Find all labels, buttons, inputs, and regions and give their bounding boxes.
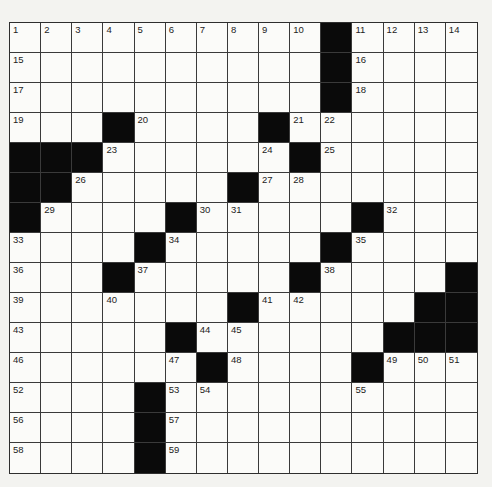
letter-cell[interactable] — [352, 323, 383, 353]
letter-cell[interactable]: 25 — [321, 143, 352, 173]
letter-cell[interactable]: 54 — [197, 383, 228, 413]
letter-cell[interactable] — [166, 113, 197, 143]
letter-cell[interactable] — [352, 143, 383, 173]
letter-cell[interactable] — [259, 323, 290, 353]
letter-cell[interactable] — [72, 413, 103, 443]
letter-cell[interactable]: 36 — [10, 263, 41, 293]
letter-cell[interactable]: 45 — [228, 323, 259, 353]
letter-cell[interactable] — [446, 83, 477, 113]
letter-cell[interactable]: 15 — [10, 53, 41, 83]
letter-cell[interactable] — [228, 413, 259, 443]
letter-cell[interactable] — [228, 53, 259, 83]
letter-cell[interactable] — [103, 53, 134, 83]
letter-cell[interactable] — [135, 83, 166, 113]
letter-cell[interactable] — [415, 203, 446, 233]
letter-cell[interactable] — [290, 443, 321, 473]
letter-cell[interactable]: 49 — [384, 353, 415, 383]
letter-cell[interactable]: 8 — [228, 23, 259, 53]
letter-cell[interactable] — [72, 233, 103, 263]
letter-cell[interactable]: 30 — [197, 203, 228, 233]
letter-cell[interactable]: 18 — [352, 83, 383, 113]
letter-cell[interactable] — [290, 413, 321, 443]
letter-cell[interactable] — [228, 443, 259, 473]
letter-cell[interactable] — [41, 413, 72, 443]
letter-cell[interactable] — [135, 53, 166, 83]
letter-cell[interactable] — [446, 143, 477, 173]
letter-cell[interactable] — [384, 293, 415, 323]
letter-cell[interactable] — [228, 83, 259, 113]
letter-cell[interactable] — [384, 413, 415, 443]
letter-cell[interactable] — [72, 323, 103, 353]
letter-cell[interactable] — [72, 203, 103, 233]
letter-cell[interactable] — [197, 173, 228, 203]
letter-cell[interactable]: 57 — [166, 413, 197, 443]
letter-cell[interactable] — [166, 263, 197, 293]
letter-cell[interactable] — [72, 83, 103, 113]
letter-cell[interactable]: 13 — [415, 23, 446, 53]
letter-cell[interactable] — [197, 293, 228, 323]
letter-cell[interactable] — [290, 203, 321, 233]
letter-cell[interactable] — [103, 383, 134, 413]
letter-cell[interactable] — [41, 383, 72, 413]
letter-cell[interactable] — [321, 203, 352, 233]
letter-cell[interactable]: 21 — [290, 113, 321, 143]
letter-cell[interactable]: 33 — [10, 233, 41, 263]
letter-cell[interactable] — [103, 323, 134, 353]
letter-cell[interactable]: 19 — [10, 113, 41, 143]
letter-cell[interactable] — [135, 203, 166, 233]
letter-cell[interactable] — [290, 83, 321, 113]
letter-cell[interactable] — [135, 143, 166, 173]
letter-cell[interactable] — [415, 233, 446, 263]
letter-cell[interactable]: 56 — [10, 413, 41, 443]
letter-cell[interactable] — [197, 413, 228, 443]
letter-cell[interactable] — [135, 293, 166, 323]
letter-cell[interactable] — [446, 203, 477, 233]
letter-cell[interactable] — [41, 113, 72, 143]
letter-cell[interactable]: 23 — [103, 143, 134, 173]
letter-cell[interactable] — [446, 443, 477, 473]
letter-cell[interactable] — [321, 413, 352, 443]
letter-cell[interactable]: 35 — [352, 233, 383, 263]
letter-cell[interactable] — [41, 323, 72, 353]
letter-cell[interactable] — [259, 443, 290, 473]
letter-cell[interactable] — [197, 83, 228, 113]
letter-cell[interactable] — [321, 323, 352, 353]
letter-cell[interactable] — [72, 263, 103, 293]
letter-cell[interactable] — [72, 53, 103, 83]
letter-cell[interactable] — [415, 143, 446, 173]
letter-cell[interactable] — [384, 443, 415, 473]
letter-cell[interactable]: 32 — [384, 203, 415, 233]
letter-cell[interactable] — [415, 263, 446, 293]
letter-cell[interactable] — [259, 203, 290, 233]
letter-cell[interactable]: 16 — [352, 53, 383, 83]
letter-cell[interactable]: 43 — [10, 323, 41, 353]
letter-cell[interactable] — [135, 323, 166, 353]
letter-cell[interactable] — [197, 113, 228, 143]
letter-cell[interactable]: 1 — [10, 23, 41, 53]
letter-cell[interactable]: 6 — [166, 23, 197, 53]
letter-cell[interactable] — [321, 173, 352, 203]
letter-cell[interactable]: 29 — [41, 203, 72, 233]
letter-cell[interactable]: 9 — [259, 23, 290, 53]
letter-cell[interactable]: 11 — [352, 23, 383, 53]
letter-cell[interactable]: 48 — [228, 353, 259, 383]
letter-cell[interactable]: 38 — [321, 263, 352, 293]
letter-cell[interactable] — [321, 443, 352, 473]
letter-cell[interactable] — [166, 143, 197, 173]
letter-cell[interactable] — [352, 443, 383, 473]
letter-cell[interactable]: 3 — [72, 23, 103, 53]
letter-cell[interactable]: 51 — [446, 353, 477, 383]
letter-cell[interactable]: 4 — [103, 23, 134, 53]
letter-cell[interactable] — [197, 53, 228, 83]
letter-cell[interactable] — [166, 293, 197, 323]
letter-cell[interactable] — [290, 353, 321, 383]
letter-cell[interactable]: 50 — [415, 353, 446, 383]
letter-cell[interactable] — [259, 53, 290, 83]
letter-cell[interactable] — [446, 113, 477, 143]
letter-cell[interactable]: 14 — [446, 23, 477, 53]
letter-cell[interactable] — [72, 113, 103, 143]
letter-cell[interactable] — [384, 383, 415, 413]
letter-cell[interactable] — [72, 293, 103, 323]
letter-cell[interactable]: 37 — [135, 263, 166, 293]
letter-cell[interactable] — [384, 113, 415, 143]
